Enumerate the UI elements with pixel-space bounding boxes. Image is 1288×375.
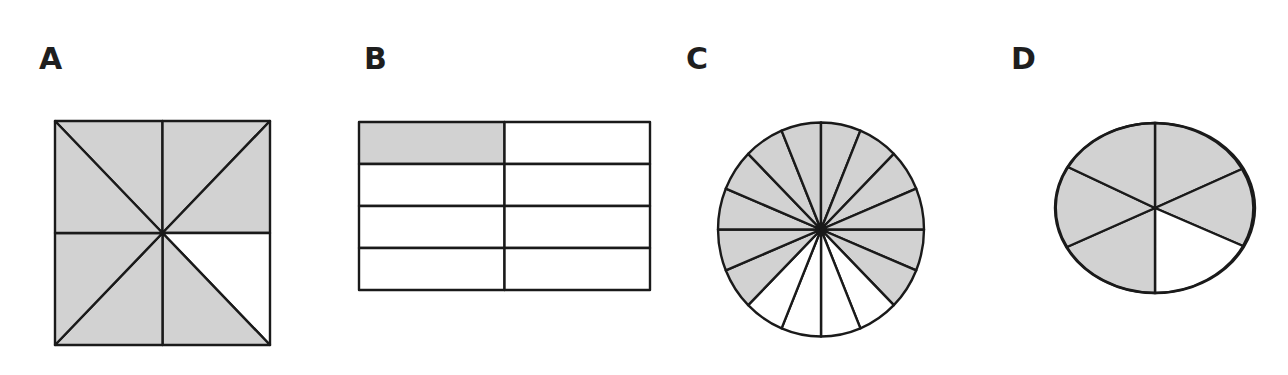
grid-cell	[359, 248, 505, 290]
grid-cell	[359, 206, 505, 248]
figure-b-rectangle-grid	[359, 122, 650, 290]
grid-cell	[359, 122, 505, 164]
grid-cell	[505, 248, 651, 290]
grid-cell	[505, 206, 651, 248]
grid-cell	[505, 164, 651, 206]
figure-d-ellipse-sectors	[1055, 123, 1255, 293]
fraction-figures	[0, 0, 1288, 375]
grid-cell	[359, 164, 505, 206]
figure-c-circle-sectors	[718, 123, 924, 337]
figure-a-square-triangles	[55, 121, 270, 345]
grid-cell	[505, 122, 651, 164]
